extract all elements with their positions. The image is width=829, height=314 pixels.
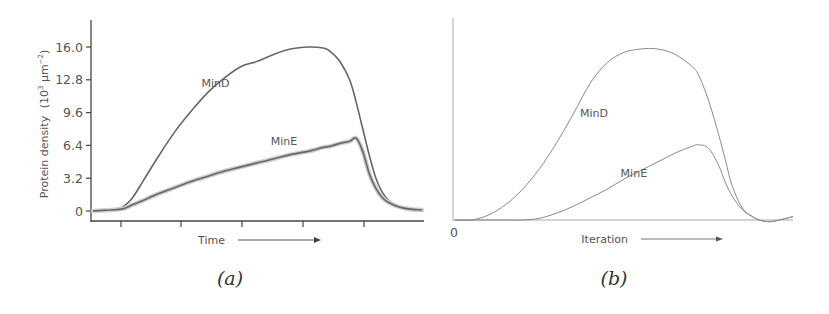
- panel-b-caption: (b): [601, 267, 628, 289]
- panel-b-series: [455, 48, 793, 221]
- arrow-right-icon: [314, 237, 321, 243]
- series-mine-line: [93, 138, 422, 211]
- series-label-mine: MinE: [621, 167, 648, 180]
- series-label-mind: MinD: [580, 107, 608, 120]
- y-tick-label: 9.6: [63, 105, 83, 120]
- panel-a-annotations: MinDMinE: [202, 77, 298, 148]
- panel-b-chart: 0 MinDMinE Iteration (b): [450, 18, 793, 289]
- series-mine-line: [455, 145, 793, 222]
- panel-a-chart: 03.26.49.612.816.0 Protein density (103 …: [37, 20, 424, 289]
- panel-a-y-axis-title: Protein density (103 µm−2): [37, 50, 51, 199]
- y-tick-label: 0: [75, 204, 83, 219]
- series-label-mind: MinD: [202, 77, 230, 90]
- y-tick-label: 3.2: [63, 171, 83, 186]
- panel-b-origin-label: 0: [450, 225, 458, 240]
- figure: 03.26.49.612.816.0 Protein density (103 …: [0, 0, 829, 314]
- series-label-mine: MinE: [271, 135, 298, 148]
- panel-a-x-axis-title: Time: [197, 234, 225, 247]
- panel-b-annotations: MinDMinE: [580, 107, 647, 180]
- panel-a-y-ticks: 03.26.49.612.816.0: [55, 40, 91, 219]
- y-tick-label: 12.8: [55, 72, 83, 87]
- panel-a-caption: (a): [217, 267, 243, 289]
- arrow-right-icon: [716, 237, 723, 242]
- panel-b-x-axis-title: Iteration: [581, 233, 628, 246]
- y-tick-label: 6.4: [63, 138, 83, 153]
- series-mind-line: [455, 48, 793, 221]
- y-tick-label: 16.0: [55, 40, 83, 55]
- panel-a-series: [93, 47, 422, 211]
- panel-a-x-ticks: [121, 221, 364, 227]
